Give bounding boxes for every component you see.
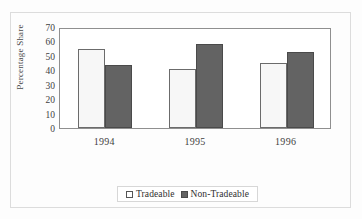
chart-legend: TradeableNon-Tradeable xyxy=(117,186,258,202)
bar-group-1995 xyxy=(169,29,223,128)
bar-group-1996 xyxy=(260,29,314,128)
x-axis-tick-labels: 199419951996 xyxy=(59,136,331,152)
x-tick-label-1994: 1994 xyxy=(74,136,134,147)
y-tick-label: 40 xyxy=(33,66,55,76)
bar-group-1994 xyxy=(78,29,132,128)
bar-1996-non-tradeable xyxy=(287,52,314,128)
y-tick-label: 70 xyxy=(33,23,55,33)
bar-1995-tradeable xyxy=(169,69,196,128)
y-tick-label: 30 xyxy=(33,81,55,91)
bar-1994-non-tradeable xyxy=(105,65,132,128)
bar-chart-figure: Percentage Share 706050403020100 1994199… xyxy=(0,0,362,219)
x-tick-label-1996: 1996 xyxy=(256,136,316,147)
legend-swatch-non-tradeable-icon xyxy=(181,191,188,198)
bar-1996-tradeable xyxy=(260,63,287,128)
bar-1994-tradeable xyxy=(78,49,105,128)
y-axis-title: Percentage Share xyxy=(15,7,25,107)
y-tick-label: 20 xyxy=(33,95,55,105)
y-tick-label: 50 xyxy=(33,52,55,62)
y-tick-label: 60 xyxy=(33,37,55,47)
plot-area xyxy=(59,28,331,129)
legend-entry-non-tradeable: Non-Tradeable xyxy=(181,189,249,199)
legend-entry-tradeable: Tradeable xyxy=(126,189,175,199)
x-tick-label-1995: 1995 xyxy=(165,136,225,147)
y-axis-tick-labels: 706050403020100 xyxy=(33,23,55,129)
bar-1995-non-tradeable xyxy=(196,44,223,128)
bars-layer xyxy=(60,29,330,128)
y-tick-label: 10 xyxy=(33,110,55,120)
y-tick-label: 0 xyxy=(33,124,55,134)
legend-label: Tradeable xyxy=(136,189,175,199)
legend-label: Non-Tradeable xyxy=(191,189,249,199)
legend-swatch-tradeable-icon xyxy=(126,191,133,198)
